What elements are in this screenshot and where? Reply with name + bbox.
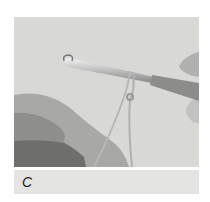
photo-illustration [14,17,199,167]
figure-caption-label: C [22,174,32,190]
crochet-hook-photo [14,17,199,167]
figure-caption-bar: C [14,170,199,194]
